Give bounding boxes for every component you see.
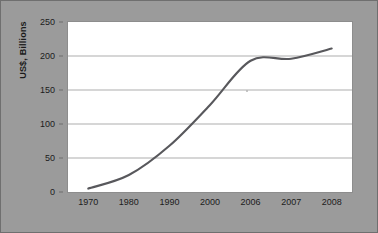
y-tick-label: 0 <box>50 187 55 197</box>
y-tick-mark <box>59 192 63 193</box>
y-tick-label: 200 <box>40 51 55 61</box>
x-tick-label: 2006 <box>241 197 261 207</box>
x-tick-label: 1970 <box>78 197 98 207</box>
series-line <box>68 22 352 192</box>
y-tick-mark <box>59 22 63 23</box>
y-axis-tick-labels: 050100150200250 <box>1 21 63 193</box>
plot-area <box>67 21 353 193</box>
y-tick-mark <box>59 90 63 91</box>
line-chart-figure: US$, Billions 050100150200250 1970198019… <box>0 0 378 233</box>
x-tick-label: 1980 <box>119 197 139 207</box>
x-tick-label: 2008 <box>322 197 342 207</box>
y-tick-label: 250 <box>40 17 55 27</box>
y-tick-label: 100 <box>40 119 55 129</box>
series-path <box>88 49 331 189</box>
y-tick-label: 150 <box>40 85 55 95</box>
y-tick-mark <box>59 124 63 125</box>
y-tick-mark <box>59 158 63 159</box>
y-tick-mark <box>59 56 63 57</box>
x-axis-tick-labels: 1970198019902000200620072008 <box>67 197 353 213</box>
y-tick-label: 50 <box>45 153 55 163</box>
x-tick-label: 1990 <box>159 197 179 207</box>
x-tick-label: 2007 <box>281 197 301 207</box>
x-tick-label: 2000 <box>200 197 220 207</box>
scan-artifact-speck <box>246 90 248 92</box>
